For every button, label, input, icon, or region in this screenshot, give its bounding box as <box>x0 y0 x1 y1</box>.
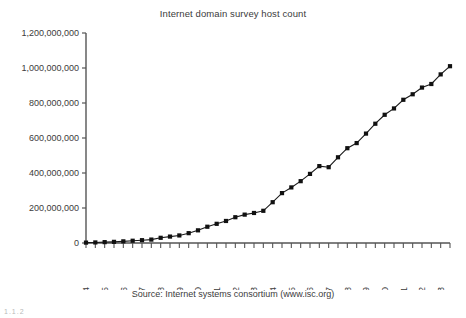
data-point-marker <box>93 240 97 244</box>
data-point-marker <box>355 141 359 145</box>
y-tick-label: 400,000,000 <box>29 168 79 178</box>
data-point-marker <box>205 225 209 229</box>
data-point-marker <box>149 237 153 241</box>
data-point-marker <box>383 113 387 117</box>
data-point-marker <box>261 209 265 213</box>
data-point-marker <box>420 85 424 89</box>
y-tick-label: 200,000,000 <box>29 203 79 213</box>
data-point-marker <box>252 211 256 215</box>
data-point-marker <box>112 240 116 244</box>
data-point-marker <box>429 82 433 86</box>
data-point-marker <box>243 213 247 217</box>
data-point-marker <box>103 240 107 244</box>
data-point-marker <box>439 72 443 76</box>
data-point-marker <box>187 231 191 235</box>
y-tick-label: 600,000,000 <box>29 133 79 143</box>
y-tick-label: 0 <box>74 238 79 248</box>
data-point-marker <box>196 228 200 232</box>
data-point-marker <box>308 172 312 176</box>
data-point-marker <box>392 106 396 110</box>
data-point-marker <box>224 219 228 223</box>
data-point-marker <box>177 233 181 237</box>
data-point-marker <box>131 239 135 243</box>
data-point-marker <box>317 164 321 168</box>
y-axis: 0200,000,000400,000,000600,000,000800,00… <box>21 28 86 248</box>
data-point-marker <box>84 241 88 245</box>
data-point-marker <box>327 165 331 169</box>
data-point-marker <box>448 64 452 68</box>
data-series-host-count <box>84 64 452 245</box>
data-point-marker <box>121 239 125 243</box>
y-tick-label: 800,000,000 <box>29 98 79 108</box>
data-point-marker <box>364 131 368 135</box>
data-point-marker <box>280 191 284 195</box>
data-point-marker <box>140 238 144 242</box>
x-axis: Jan-94Jan-95Jan-96Jan-97Jan-98Jan-99Jan-… <box>81 243 450 290</box>
y-tick-label: 1,000,000,000 <box>21 63 79 73</box>
data-point-marker <box>168 234 172 238</box>
data-point-marker <box>373 122 377 126</box>
data-point-marker <box>345 146 349 150</box>
data-point-marker <box>215 222 219 226</box>
data-point-marker <box>159 236 163 240</box>
data-point-marker <box>233 215 237 219</box>
data-point-marker <box>271 200 275 204</box>
y-tick-label: 1,200,000,000 <box>21 28 79 38</box>
source-note: Source: Internet systems consortium (www… <box>0 289 466 299</box>
chart-page: Internet domain survey host count 0200,0… <box>0 0 466 318</box>
data-point-marker <box>336 155 340 159</box>
data-point-marker <box>401 98 405 102</box>
data-point-marker <box>411 92 415 96</box>
data-point-marker <box>299 179 303 183</box>
line-chart-plot: 0200,000,000400,000,000600,000,000800,00… <box>0 0 466 290</box>
page-footer-artifact: 1.1.2 <box>4 308 25 315</box>
data-point-marker <box>289 185 293 189</box>
